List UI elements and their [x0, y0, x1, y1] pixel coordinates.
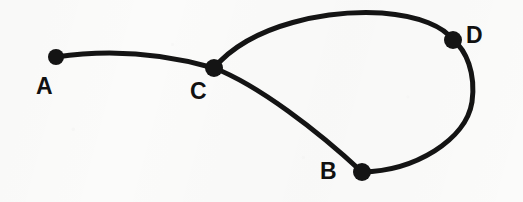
node-dot-c	[205, 59, 223, 77]
node-label-d: D	[466, 24, 483, 47]
edge-b-d	[362, 40, 473, 172]
node-dot-b	[353, 163, 371, 181]
node-dot-d	[444, 31, 462, 49]
node-label-a: A	[36, 75, 53, 98]
node-label-b: B	[320, 160, 337, 183]
graph-canvas	[0, 0, 523, 202]
node-dot-a	[48, 49, 64, 65]
edge-a-c	[56, 53, 214, 68]
edge-c-b	[214, 68, 362, 172]
edge-layer	[56, 13, 473, 172]
node-label-c: C	[190, 80, 207, 103]
graph-diagram-figure: A C B D	[0, 0, 523, 202]
edge-c-d	[214, 13, 453, 68]
